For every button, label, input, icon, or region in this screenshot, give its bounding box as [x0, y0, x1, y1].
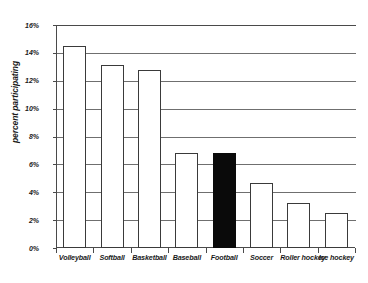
- x-tick-mark: [168, 248, 169, 253]
- x-tick-mark: [318, 248, 319, 253]
- y-axis-title: percent participating: [10, 47, 20, 157]
- bar-soccer: [250, 183, 273, 249]
- y-tick-label: 12%: [0, 77, 39, 84]
- x-tick-label: Volleyball: [56, 254, 93, 262]
- x-axis-layer: VolleyballSoftballBasketballBaseballFoot…: [56, 248, 355, 283]
- y-tick-label: 6%: [0, 161, 39, 168]
- y-tick-label: 16%: [0, 22, 39, 29]
- x-tick-label: Basketball: [131, 254, 168, 262]
- bar-ice-hockey: [325, 213, 348, 248]
- x-tick-label: Football: [206, 254, 243, 262]
- y-tick-label: 8%: [0, 133, 39, 140]
- y-tick-label: 14%: [0, 49, 39, 56]
- x-tick-label: Baseball: [168, 254, 205, 262]
- x-tick-mark: [56, 248, 57, 253]
- y-tick-label: 4%: [0, 189, 39, 196]
- bar-chart: percent participating 0%2%4%6%8%10%12%14…: [0, 0, 368, 283]
- bar-basketball: [138, 70, 161, 248]
- x-tick-label: Roller hockey: [280, 254, 317, 262]
- bar-football: [213, 153, 236, 248]
- x-tick-mark: [131, 248, 132, 253]
- bars-layer: [56, 25, 355, 248]
- x-tick-label: Ice hockey: [318, 254, 355, 262]
- bar-softball: [101, 65, 124, 248]
- x-tick-mark: [355, 248, 356, 253]
- y-tick-label: 0%: [0, 245, 39, 252]
- x-tick-mark: [280, 248, 281, 253]
- bar-baseball: [175, 153, 198, 248]
- x-tick-label: Soccer: [243, 254, 280, 262]
- x-tick-mark: [93, 248, 94, 253]
- x-tick-mark: [206, 248, 207, 253]
- bar-volleyball: [63, 46, 86, 248]
- y-tick-label: 2%: [0, 217, 39, 224]
- x-tick-mark: [243, 248, 244, 253]
- bar-roller-hockey: [287, 203, 310, 248]
- y-tick-label: 10%: [0, 105, 39, 112]
- x-tick-label: Softball: [93, 254, 130, 262]
